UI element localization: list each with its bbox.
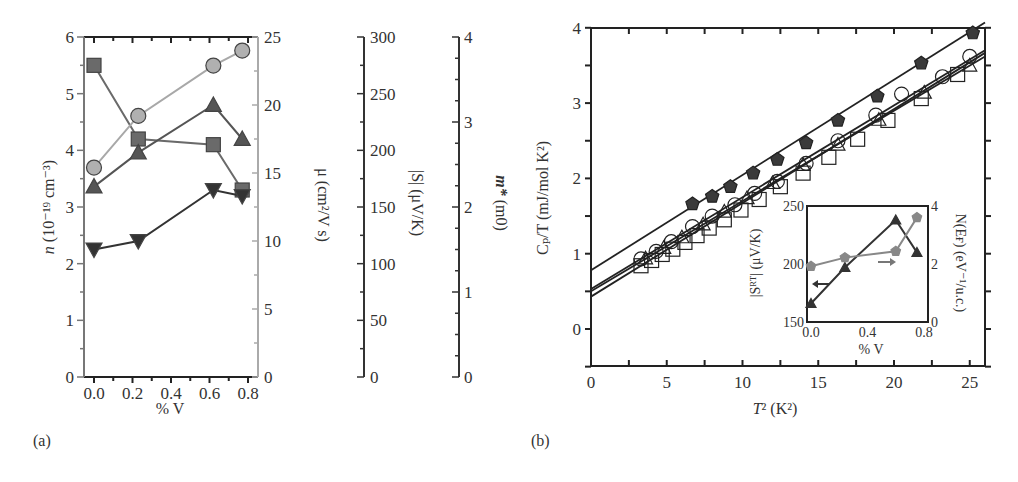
panel-b-label: (b) xyxy=(531,432,550,450)
panel-a-label: (a) xyxy=(33,432,51,450)
y-tick-label: 4 xyxy=(573,19,582,38)
x-tick-label: 0.8 xyxy=(237,384,258,403)
y3-tick-label: 50 xyxy=(370,311,387,330)
y1-tick-label: 3 xyxy=(66,198,75,217)
pentagon-marker xyxy=(831,113,844,126)
inset-ylabel-left: |Sᴿᵀ| (μV/K) xyxy=(748,228,764,297)
circle-marker xyxy=(895,87,909,101)
panel-a-y2-label: μ (cm²/V s) xyxy=(314,168,332,242)
y1-tick-label: 5 xyxy=(66,85,75,104)
pentagon-marker xyxy=(871,89,884,102)
inset-left-tick-label: 150 xyxy=(783,315,804,330)
y-tick-label: 1 xyxy=(573,245,582,264)
y4-tick-label: 1 xyxy=(464,283,473,302)
x-tick-label: 10 xyxy=(734,373,751,392)
inset-x-tick-label: 0.4 xyxy=(859,325,877,340)
y2-tick-label: 25 xyxy=(264,28,281,47)
circle-marker xyxy=(131,108,146,123)
circle-marker xyxy=(206,58,221,73)
panel-a-y1-label: n (10⁻¹⁹ cm⁻³) xyxy=(40,160,58,254)
y1-tick-label: 4 xyxy=(66,141,75,160)
triangle-up-marker xyxy=(130,145,146,159)
inset-x-tick-label: 0.0 xyxy=(802,325,820,340)
y4-tick-label: 3 xyxy=(464,113,473,132)
y-tick-label: 3 xyxy=(573,94,582,113)
panel-a-series xyxy=(86,43,250,257)
inset-right-tick-label: 0 xyxy=(931,315,938,330)
x-tick-label: 0.2 xyxy=(122,384,143,403)
x-tick-label: 0.6 xyxy=(199,384,220,403)
series-line xyxy=(94,65,242,190)
panel-b-chart: 051015202501234 0.00.40.8150200250024 T²… xyxy=(531,19,991,450)
y1-tick-label: 2 xyxy=(66,255,75,274)
y-tick-label: 2 xyxy=(573,169,582,188)
x-tick-label: 0.0 xyxy=(83,384,104,403)
y-tick-label: 0 xyxy=(573,320,582,339)
inset-left-tick-label: 250 xyxy=(783,199,804,214)
y4-tick-label: 2 xyxy=(464,198,473,217)
y1-tick-label: 0 xyxy=(66,368,75,387)
pentagon-marker xyxy=(746,166,759,179)
circle-marker xyxy=(235,43,250,58)
y2-tick-label: 20 xyxy=(264,96,281,115)
circle-marker xyxy=(87,160,102,175)
y1-tick-label: 1 xyxy=(66,311,75,330)
y4-tick-label: 0 xyxy=(464,368,473,387)
triangle-up-marker xyxy=(86,179,102,193)
y3-tick-label: 300 xyxy=(370,28,396,47)
series-line xyxy=(94,190,242,250)
inset-xlabel: % V xyxy=(858,342,883,357)
x-tick-label: 0 xyxy=(587,373,596,392)
panel-b-inset: 0.00.40.8150200250024 xyxy=(783,199,938,340)
inset-ylabel-right: N(Eғ) (eV⁻¹/u.c.) xyxy=(952,214,968,313)
pentagon-marker xyxy=(724,180,737,193)
pentagon-marker xyxy=(915,56,928,69)
panel-a-y4-label: m* (m0) xyxy=(492,175,510,231)
inset-left-tick-label: 200 xyxy=(783,257,804,272)
panel-a-chart: 0.00.20.40.60.80123456051015202505010015… xyxy=(33,28,510,450)
x-tick-label: 5 xyxy=(663,373,672,392)
y3-tick-label: 0 xyxy=(370,368,379,387)
y3-tick-label: 250 xyxy=(370,85,396,104)
inset-frame xyxy=(807,206,928,322)
x-tick-label: 25 xyxy=(961,373,978,392)
panel-a-y3-label: |S| (μV/K) xyxy=(408,170,426,236)
pentagon-marker xyxy=(771,153,784,166)
y3-tick-label: 100 xyxy=(370,255,396,274)
triangle-up-marker xyxy=(205,97,221,111)
triangle-down-marker xyxy=(86,243,102,257)
figure: 0.00.20.40.60.80123456051015202505010015… xyxy=(0,0,1018,482)
y2-tick-label: 5 xyxy=(264,300,273,319)
y2-tick-label: 0 xyxy=(264,368,273,387)
y2-tick-label: 15 xyxy=(264,164,281,183)
pentagon-marker xyxy=(686,197,699,210)
x-tick-label: 15 xyxy=(810,373,827,392)
panel-b-xlabel: T² (K²) xyxy=(753,400,798,418)
panel-b-ylabel: Cₚ/T (mJ/mol K²) xyxy=(534,141,552,255)
inset-right-tick-label: 2 xyxy=(931,257,938,272)
y1-tick-label: 6 xyxy=(66,28,75,47)
y3-tick-label: 150 xyxy=(370,198,396,217)
inset-right-tick-label: 4 xyxy=(931,199,938,214)
y4-tick-label: 4 xyxy=(464,28,473,47)
square-marker xyxy=(87,58,101,72)
panel-a-xlabel: % V xyxy=(156,400,185,417)
y3-tick-label: 200 xyxy=(370,141,396,160)
y2-tick-label: 10 xyxy=(264,232,281,251)
x-tick-label: 20 xyxy=(886,373,903,392)
square-marker xyxy=(206,138,220,152)
